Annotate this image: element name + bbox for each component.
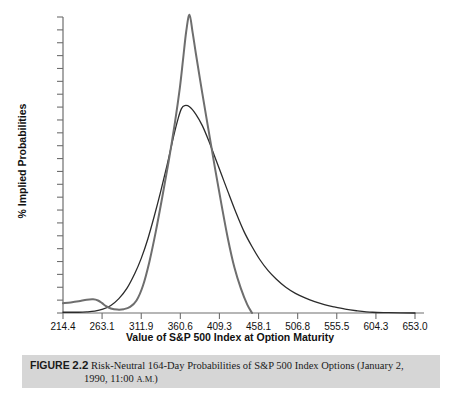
figure-caption-line1: Risk-Neutral 164-Day Probabilities of S&… xyxy=(91,360,404,371)
y-axis-title: % Implied Probabilities xyxy=(16,81,28,241)
chart-plot-area: 0.000.340.681.021.361.702.042.382.723.06… xyxy=(0,0,460,345)
caption-time: 1990, 11:00 xyxy=(84,373,136,384)
figure-container: 0.000.340.681.021.361.702.042.382.723.06… xyxy=(0,0,460,396)
figure-caption-line2: 1990, 11:00 A.M.) xyxy=(84,372,434,386)
figure-caption-band: FIGURE 2.2 Risk-Neutral 164-Day Probabil… xyxy=(22,355,440,388)
x-axis-tick-labels: 214.4263.1311.9360.6409.3458.1506.8555.5… xyxy=(0,0,460,345)
figure-label: FIGURE xyxy=(30,359,70,371)
caption-ampm: A.M. xyxy=(136,374,154,384)
caption-paren: ) xyxy=(154,373,158,384)
figure-number: 2.2 xyxy=(72,359,88,371)
figure-caption-text: FIGURE 2.2 Risk-Neutral 164-Day Probabil… xyxy=(30,359,434,386)
x-axis-title: Value of S&P 500 Index at Option Maturit… xyxy=(0,331,460,343)
